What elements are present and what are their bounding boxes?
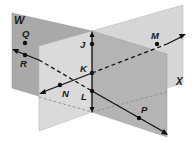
point-m bbox=[155, 42, 159, 46]
intersecting-planes-diagram: W X J K L M N P Q R bbox=[0, 0, 193, 142]
label-l: L bbox=[81, 91, 87, 102]
point-j bbox=[90, 42, 94, 46]
label-q: Q bbox=[22, 28, 30, 39]
point-l bbox=[90, 89, 94, 93]
point-n bbox=[58, 83, 62, 87]
plane-label-w: W bbox=[14, 14, 26, 26]
point-r bbox=[23, 53, 27, 57]
label-r: R bbox=[20, 58, 27, 69]
point-k bbox=[90, 71, 94, 75]
label-m: M bbox=[151, 30, 160, 41]
label-n: N bbox=[62, 88, 70, 99]
plane-label-x: X bbox=[175, 76, 184, 87]
point-q bbox=[23, 41, 27, 45]
label-j: J bbox=[80, 39, 86, 50]
label-k: K bbox=[80, 63, 88, 74]
point-p bbox=[137, 116, 141, 120]
label-p: P bbox=[141, 104, 148, 115]
